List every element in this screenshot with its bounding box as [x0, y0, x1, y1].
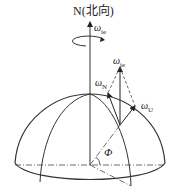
- latitude-phi-label: Φ: [104, 147, 112, 158]
- radius-line-upper: [90, 125, 120, 165]
- omega-u-vector: [120, 106, 135, 125]
- omega-ie-vector-label: ωie: [113, 56, 125, 69]
- omega-ie-axis-label: ωie: [94, 23, 106, 36]
- meridian-right: [90, 94, 131, 186]
- omega-n-label: ωN: [95, 78, 107, 91]
- equator-front: [15, 163, 165, 180]
- omega-u-label: ωU: [141, 101, 153, 114]
- latitude-arc: [96, 157, 100, 165]
- radius-line-lower: [90, 165, 131, 186]
- north-label: N(北向): [73, 5, 114, 17]
- earth-rotation-diagram: [0, 0, 172, 195]
- rotation-arrow-icon: [72, 36, 104, 46]
